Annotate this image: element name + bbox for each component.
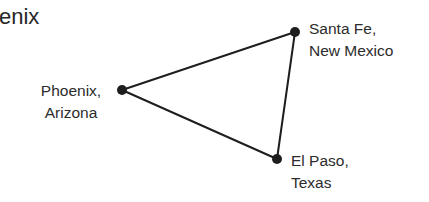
node-santa-fe-dot-icon <box>290 27 300 37</box>
node-phoenix-dot-icon <box>117 85 127 95</box>
label-santa-fe: Santa Fe, New Mexico <box>309 18 393 62</box>
label-santa-fe-line1: Santa Fe, <box>309 18 393 40</box>
label-el-paso-line1: El Paso, <box>291 150 349 172</box>
label-phoenix-line1: Phoenix, <box>28 80 114 102</box>
edge-phoenix-santa-fe <box>122 32 295 90</box>
label-el-paso: El Paso, Texas <box>291 150 349 194</box>
edges <box>122 32 295 159</box>
label-phoenix: Phoenix, Arizona <box>28 80 114 124</box>
edge-santa-fe-el-paso <box>277 32 295 159</box>
nodes <box>117 27 300 164</box>
label-el-paso-line2: Texas <box>291 172 349 194</box>
node-el-paso-dot-icon <box>272 154 282 164</box>
label-phoenix-line2: Arizona <box>28 102 114 124</box>
label-santa-fe-line2: New Mexico <box>309 40 393 62</box>
edge-el-paso-phoenix <box>122 90 277 159</box>
